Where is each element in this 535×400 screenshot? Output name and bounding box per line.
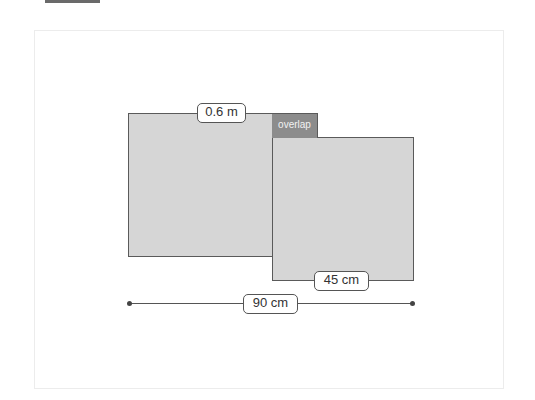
overlap-region: overlap <box>272 113 318 138</box>
overlap-label: overlap <box>278 119 311 130</box>
rectangle-b <box>272 137 414 281</box>
total-width-label: 90 cm <box>243 294 298 314</box>
top-bar <box>45 0 100 3</box>
dimension-endpoint-left-icon <box>127 301 132 306</box>
rect-b-width-label: 45 cm <box>314 271 369 291</box>
rect-a-width-label: 0.6 m <box>197 103 246 123</box>
dimension-endpoint-right-icon <box>410 301 415 306</box>
